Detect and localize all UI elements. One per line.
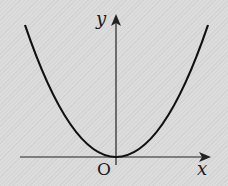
y-axis-label: y xyxy=(96,10,106,28)
graph-svg xyxy=(0,0,228,186)
origin-label: O xyxy=(97,161,111,178)
graph-canvas: y x O xyxy=(0,0,228,186)
x-axis-label: x xyxy=(197,160,207,178)
